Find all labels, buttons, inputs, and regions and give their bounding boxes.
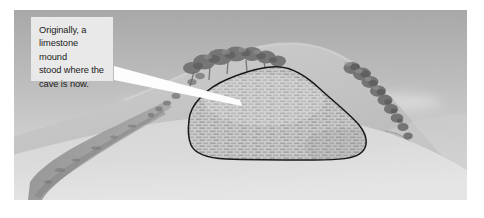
callout-text: Originally, a limestone mound stood wher… bbox=[39, 24, 107, 91]
figure-root: Originally, a limestone mound stood wher… bbox=[0, 0, 484, 218]
callout-box: Originally, a limestone mound stood wher… bbox=[31, 17, 113, 81]
